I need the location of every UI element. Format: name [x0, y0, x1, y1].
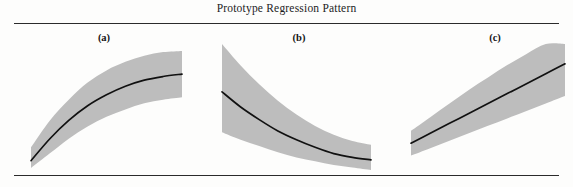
- panel-c-plot: [411, 43, 565, 155]
- confidence-band-b: [222, 44, 371, 170]
- confidence-band-a: [31, 51, 182, 168]
- confidence-band-c: [411, 43, 565, 155]
- plot-area: [0, 0, 573, 187]
- figure-container: Prototype Regression Pattern (a) (b) (c): [0, 0, 573, 187]
- regression-panels-svg: [0, 0, 573, 187]
- panel-b-plot: [222, 44, 371, 170]
- panel-a-plot: [31, 51, 182, 168]
